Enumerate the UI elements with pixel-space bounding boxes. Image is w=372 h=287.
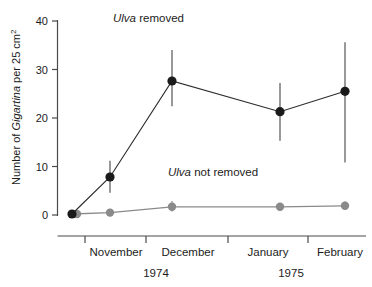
data-point-removed-1 — [105, 172, 114, 181]
y-tick-label-10: 10 — [36, 161, 48, 173]
y-axis-tick-labels: 40 30 20 10 0 — [36, 15, 48, 221]
data-point-removed-2 — [167, 76, 176, 85]
data-point-not-removed-4 — [341, 202, 349, 210]
y-axis-title-tail: per 25 cm — [10, 34, 22, 86]
data-point-not-removed-3 — [276, 203, 284, 211]
y-tick-label-0: 0 — [42, 209, 48, 221]
data-point-removed-4 — [340, 87, 349, 96]
annotation-not-removed-text: not removed — [191, 166, 258, 178]
annotation-removed-text: removed — [136, 12, 184, 24]
period-label-1975: 1975 — [278, 267, 304, 279]
data-point-removed-3 — [275, 107, 284, 116]
line-chart: 40 30 20 10 0 Number of Gigartina per 25… — [0, 0, 372, 287]
y-tick-label-40: 40 — [36, 15, 48, 27]
y-axis-title: Number of Gigartina per 25 cm2 — [9, 29, 22, 185]
period-labels: 1974 1975 — [143, 267, 304, 279]
series-removed-line — [72, 81, 345, 214]
x-label-january: January — [248, 246, 289, 258]
data-point-not-removed-1 — [106, 208, 114, 216]
y-axis-title-genus: Gigartina — [10, 86, 22, 131]
series-ulva-not-removed — [72, 201, 349, 218]
x-label-november: November — [89, 246, 142, 258]
x-axis-category-labels: November December January February — [89, 246, 363, 258]
data-point-not-removed-2 — [168, 203, 176, 211]
annotation-ulva-removed: Ulva removed — [113, 12, 184, 24]
x-label-february: February — [317, 246, 363, 258]
period-label-1974: 1974 — [143, 267, 169, 279]
y-tick-label-30: 30 — [36, 64, 48, 76]
y-axis-ticks — [52, 21, 58, 215]
series-not-removed-markers — [73, 202, 349, 219]
series-removed-markers — [67, 76, 349, 218]
annotation-removed-genus: Ulva — [113, 12, 136, 24]
x-label-december: December — [161, 246, 214, 258]
y-axis-title-superscript: 2 — [9, 29, 18, 34]
chart-figure: 40 30 20 10 0 Number of Gigartina per 25… — [0, 0, 372, 287]
data-point-removed-0 — [67, 209, 76, 218]
annotation-not-removed-genus: Ulva — [168, 166, 191, 178]
y-tick-label-20: 20 — [36, 112, 48, 124]
y-axis-title-lead: Number of — [10, 131, 22, 185]
x-axis-ticks — [85, 236, 308, 243]
series-ulva-removed — [67, 42, 349, 218]
annotation-ulva-not-removed: Ulva not removed — [168, 166, 258, 178]
